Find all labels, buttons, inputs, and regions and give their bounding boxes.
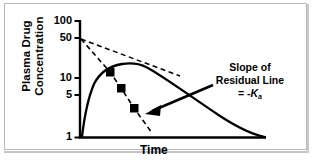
y-axis-title: Plasma Drug Concentration: [15, 1, 51, 111]
y-tick-label-5: 5: [48, 89, 72, 100]
slope-eq-symbol: K: [251, 87, 259, 99]
figure-root: 100 50 10 5 1 Plasma Drug Concentration …: [0, 0, 313, 163]
residual-point-3: [130, 104, 139, 113]
residual-point-1: [106, 68, 115, 77]
residual-point-2: [117, 84, 126, 93]
y-tick-label-10: 10: [48, 72, 72, 83]
slope-eq-prefix: = -: [238, 87, 251, 99]
slope-annotation-line2: Residual Line: [196, 74, 304, 87]
residual-line: [81, 39, 152, 133]
slope-annotation: Slope of Residual Line = -Ka: [196, 61, 304, 101]
y-axis-title-line2: Concentration: [33, 16, 46, 95]
y-axis-title-line1: Plasma Drug: [20, 20, 33, 91]
y-tick-label-50: 50: [48, 32, 72, 43]
terminal-extrapolation-line: [81, 39, 180, 76]
slope-annotation-line1: Slope of: [196, 61, 304, 74]
slope-eq-subscript: a: [258, 93, 262, 100]
slope-annotation-equation: = -Ka: [196, 87, 304, 101]
y-tick-label-1: 1: [48, 131, 72, 142]
y-tick-label-100: 100: [48, 15, 72, 26]
x-axis-title: Time: [140, 143, 168, 157]
